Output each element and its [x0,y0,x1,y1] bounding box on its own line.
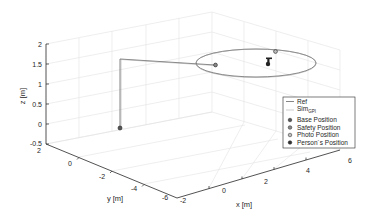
legend: Ref SimGPI Base Position Safety Position… [283,97,355,148]
z-tick-0.5: 0.5 [32,101,42,108]
legend-base-marker [288,118,292,122]
z-tick-1.5: 1.5 [32,61,42,68]
x-tick-2: 2 [264,178,268,185]
z-tick-0: 0 [38,121,42,128]
z-tick-2: 2 [38,41,42,48]
trajectory-3d-plot: 2 1.5 1 0.5 0 -0.5 z [m] 2 0 -2 -4 -6 y … [0,0,370,217]
z-tick-labels: 2 1.5 1 0.5 0 -0.5 [30,41,42,147]
z-tick-1: 1 [38,81,42,88]
legend-photo: Photo Position [297,131,339,138]
legend-person-marker [288,141,292,145]
x-axis-line [177,150,340,198]
legend-person: Person´s Position [297,139,348,146]
x-tick-6: 6 [348,157,352,164]
legend-photo-marker [288,133,292,137]
legend-safety-marker [288,126,292,130]
y-tick-neg4: -4 [131,185,137,192]
x-tick-4: 4 [306,167,310,174]
z-axis-label: z [m] [18,88,27,104]
y-ticks [77,158,144,187]
photo-position-marker [274,50,278,54]
y-tick-0: 0 [68,160,72,167]
y-axis-label: y [m] [107,194,123,203]
y-tick-labels: 2 0 -2 -4 -6 [37,147,168,201]
x-tick-0: 0 [222,187,226,194]
y-axis-line [46,144,177,198]
y-tick-neg2: -2 [99,173,105,180]
z-ticks [46,44,49,144]
safety-position-marker [214,63,218,67]
x-axis-label: x [m] [236,200,252,209]
x-tick-neg2: -2 [180,197,186,204]
x-tick-labels: -2 0 2 4 6 [180,157,352,204]
y-tick-2: 2 [37,147,41,154]
legend-base: Base Position [297,116,337,123]
person-figure-icon [266,58,272,67]
legend-ref: Ref [297,98,307,105]
z-tick-neg0.5: -0.5 [30,140,42,147]
base-position-marker [118,126,122,130]
y-tick-neg6: -6 [162,194,168,201]
